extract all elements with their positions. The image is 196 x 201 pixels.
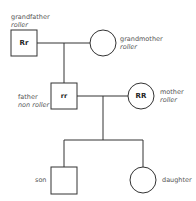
son-square <box>51 167 77 194</box>
mother-status-label: roller <box>160 96 177 105</box>
mother-genotype: RR <box>128 92 154 100</box>
grandmother-circle <box>90 30 116 56</box>
daughter-circle <box>130 167 156 193</box>
father-genotype: rr <box>51 92 77 100</box>
daughter-role-label: daughter <box>162 176 192 185</box>
father-status-label: non roller <box>18 101 49 110</box>
grandmother-status-label: roller <box>120 43 137 52</box>
grandfather-genotype: Rr <box>11 39 37 47</box>
son-role-label: son <box>35 176 46 185</box>
grandfather-status-label: roller <box>11 21 28 30</box>
